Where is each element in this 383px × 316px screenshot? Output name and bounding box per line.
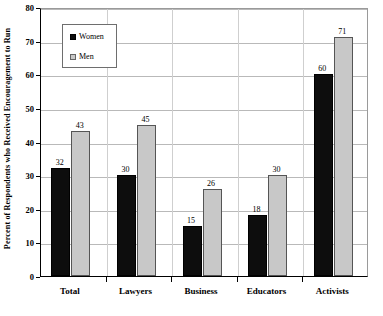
x-tick-mark xyxy=(171,277,172,282)
bar-value-label: 71 xyxy=(338,27,346,36)
bar-value-label: 15 xyxy=(187,216,195,225)
bar-value-label: 60 xyxy=(318,64,326,73)
y-tick-label: 70 xyxy=(8,37,34,47)
legend-swatch-men-icon xyxy=(70,54,76,60)
y-tick-label: 30 xyxy=(8,171,34,181)
bar-activists-men xyxy=(334,37,353,276)
x-category-label-educators: Educators xyxy=(247,286,287,296)
legend-label-women: Women xyxy=(79,32,104,41)
y-tick-label: 80 xyxy=(8,3,34,13)
y-tick-label: 20 xyxy=(8,205,34,215)
bar-chart: Percent of Respondents who Received Enco… xyxy=(0,0,383,316)
bar-business-women xyxy=(183,226,202,276)
bar-total-men xyxy=(71,131,90,276)
y-tick-label: 40 xyxy=(8,138,34,148)
bar-value-label: 45 xyxy=(141,115,149,124)
x-category-label-total: Total xyxy=(60,286,80,296)
y-tick-label: 60 xyxy=(8,70,34,80)
x-tick-mark xyxy=(106,277,107,282)
legend-entry-men: Men xyxy=(70,52,94,61)
y-tick-label: 50 xyxy=(8,104,34,114)
gridline xyxy=(41,9,367,10)
bar-lawyers-men xyxy=(137,125,156,276)
x-category-label-activists: Activists xyxy=(316,286,349,296)
category-separator xyxy=(172,9,173,276)
y-tick-label: 0 xyxy=(8,272,34,282)
bar-value-label: 32 xyxy=(56,158,64,167)
y-tick-label: 10 xyxy=(8,238,34,248)
x-category-label-lawyers: Lawyers xyxy=(119,286,152,296)
category-separator xyxy=(303,9,304,276)
bar-activists-women xyxy=(314,74,333,276)
bar-value-label: 43 xyxy=(76,121,84,130)
y-tick-mark xyxy=(36,277,40,278)
bar-value-label: 30 xyxy=(273,165,281,174)
legend-entry-women: Women xyxy=(70,32,104,41)
x-tick-mark xyxy=(302,277,303,282)
bar-educators-women xyxy=(248,215,267,276)
bar-value-label: 18 xyxy=(253,205,261,214)
bar-value-label: 26 xyxy=(207,179,215,188)
bar-value-label: 30 xyxy=(121,165,129,174)
legend-swatch-women-icon xyxy=(70,34,76,40)
category-separator xyxy=(238,9,239,276)
bar-educators-men xyxy=(268,175,287,276)
legend: Women Men xyxy=(62,24,117,68)
bar-lawyers-women xyxy=(117,175,136,276)
x-category-label-business: Business xyxy=(184,286,217,296)
legend-label-men: Men xyxy=(79,52,94,61)
bar-business-men xyxy=(203,189,222,276)
x-tick-mark xyxy=(237,277,238,282)
bar-total-women xyxy=(51,168,70,276)
